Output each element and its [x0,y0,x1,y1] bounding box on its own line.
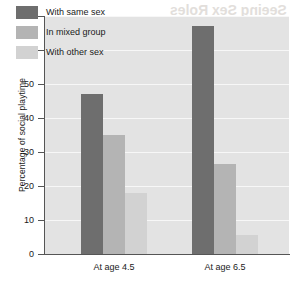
x-axis-line [44,254,290,255]
legend-label: With other sex [46,47,104,57]
bar [103,135,125,254]
y-axis-tick-label: 40 [0,113,34,123]
y-axis-tick-label: 50 [0,79,34,89]
y-axis-tick-mark [38,152,44,153]
bar [192,26,214,254]
x-axis-group-label: At age 6.5 [204,262,245,272]
y-axis-tick-mark [38,254,44,255]
legend-entry: With same sex [16,5,106,19]
bar [125,193,147,254]
y-axis-tick-label: 0 [0,249,34,259]
legend-label: With same sex [46,7,105,17]
y-axis-tick-mark [38,84,44,85]
legend-color-swatch [16,26,38,39]
y-axis-tick-label: 30 [0,147,34,157]
legend-color-swatch [16,6,38,19]
legend-entry: In mixed group [16,25,106,39]
x-axis-group-label: At age 4.5 [93,262,134,272]
bar-chart-figure: Seeing Sex Roles Making Connections Perc… [0,0,293,285]
legend-label: In mixed group [46,27,106,37]
legend-color-swatch [16,46,38,59]
y-axis-tick-label: 10 [0,215,34,225]
chart-legend: With same sexIn mixed groupWith other se… [16,5,106,65]
bar [81,94,103,254]
y-axis-tick-mark [38,220,44,221]
bar [236,235,258,254]
y-axis-tick-label: 20 [0,181,34,191]
legend-entry: With other sex [16,45,106,59]
gridline [44,84,289,85]
y-axis-tick-mark [38,186,44,187]
bar [214,164,236,254]
y-axis-tick-mark [38,118,44,119]
